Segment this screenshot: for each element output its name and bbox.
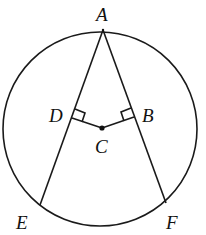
label-f: F: [165, 212, 178, 233]
label-b: B: [142, 105, 154, 126]
label-d: D: [48, 105, 63, 126]
segment-cb: [102, 117, 134, 128]
geometry-diagram: A B C D E F: [0, 0, 206, 235]
chord-af: [103, 30, 166, 203]
label-e: E: [15, 212, 28, 233]
label-a: A: [94, 4, 108, 25]
center-point-c: [99, 125, 104, 130]
segment-cd: [72, 118, 102, 128]
vertex-a: [102, 29, 104, 31]
label-c: C: [95, 136, 108, 157]
